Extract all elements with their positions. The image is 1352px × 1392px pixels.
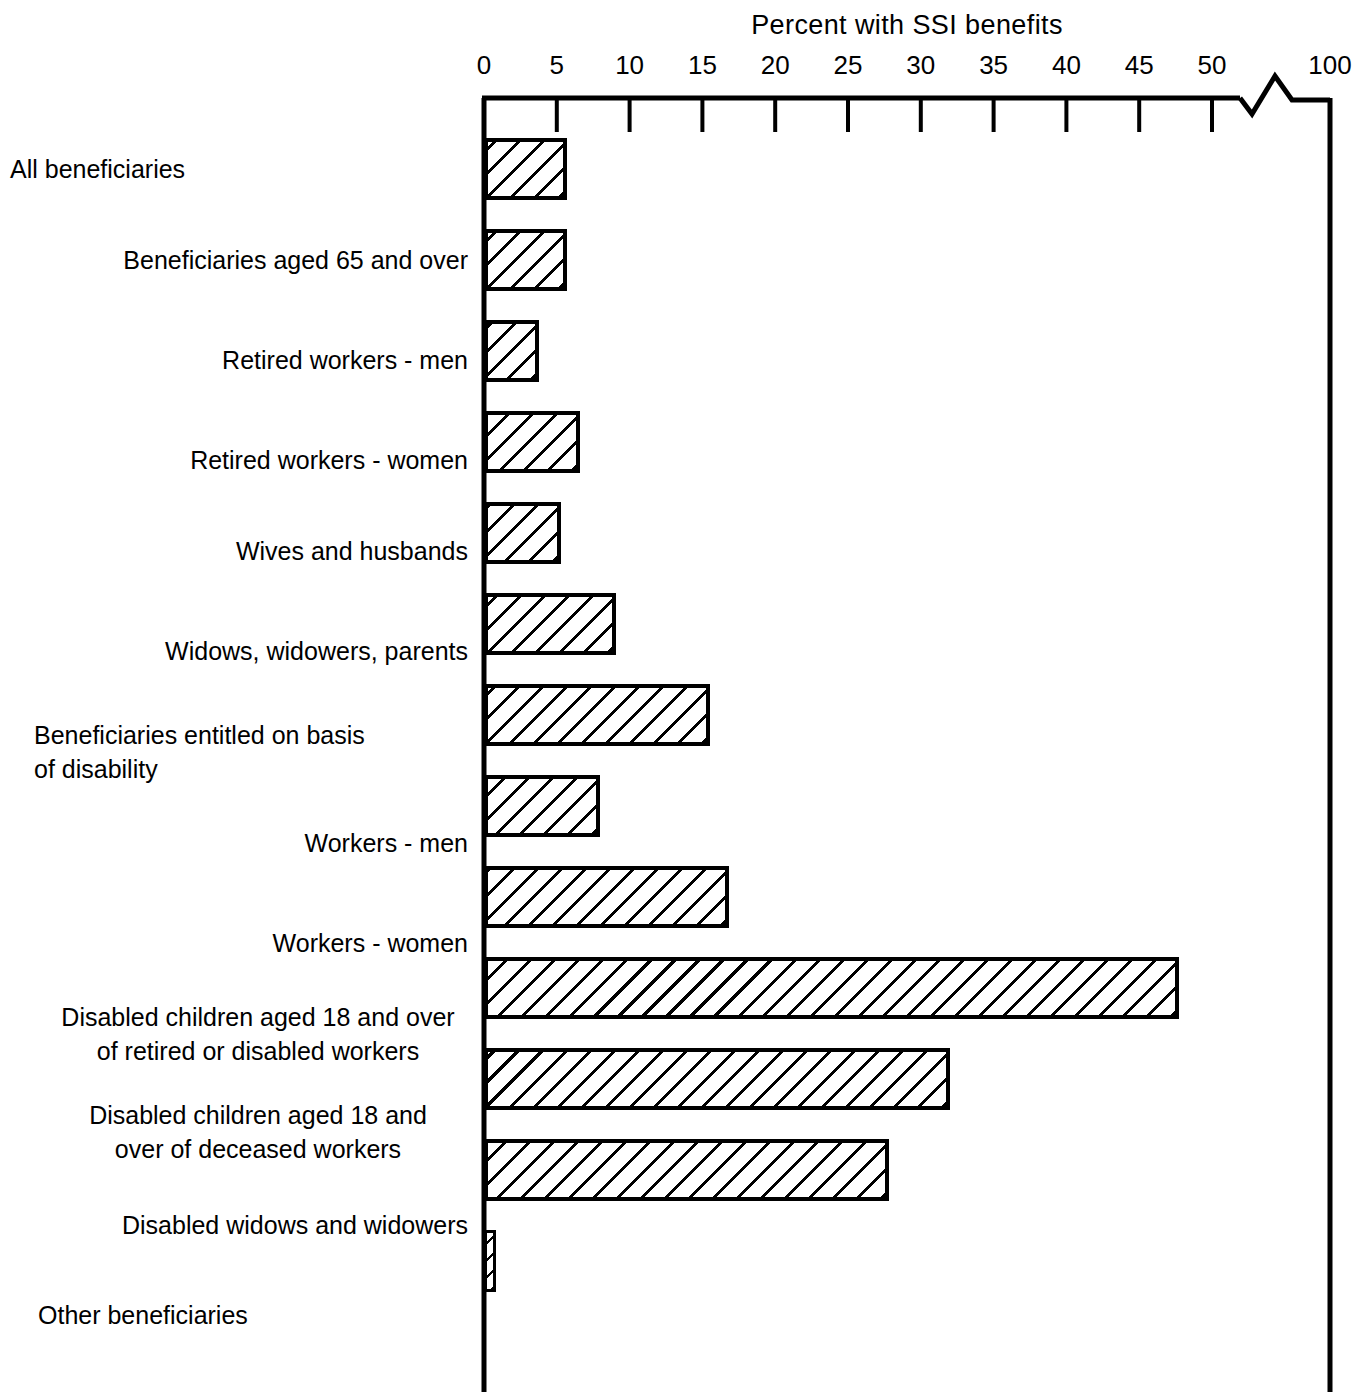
chart-title: Percent with SSI benefits (484, 10, 1330, 41)
bar (484, 320, 539, 382)
category-label: Other beneficiaries (38, 1298, 438, 1332)
x-axis-tick-5: 5 (550, 50, 564, 81)
category-label: Retired workers - men (146, 343, 468, 377)
x-axis-tick-15: 15 (688, 50, 717, 81)
bar (484, 775, 600, 837)
bar (484, 1048, 950, 1110)
x-axis-tick-100: 100 (1308, 50, 1351, 81)
category-label: Disabled widows and widowers (51, 1208, 468, 1242)
category-label: All beneficiaries (10, 152, 460, 186)
bar (484, 1139, 889, 1201)
bar (484, 138, 567, 200)
bar (484, 502, 561, 564)
x-axis-tick-45: 45 (1125, 50, 1154, 81)
bar (484, 684, 710, 746)
bar (484, 1230, 496, 1292)
x-axis-tick-50: 50 (1198, 50, 1227, 81)
category-label: Wives and husbands (158, 534, 468, 568)
x-axis-tick-10: 10 (615, 50, 644, 81)
x-axis-tick-30: 30 (906, 50, 935, 81)
category-label: Beneficiaries aged 65 and over (75, 243, 468, 277)
bar (484, 411, 580, 473)
category-label: Beneficiaries entitled on basis of disab… (34, 718, 454, 786)
category-label: Widows, widowers, parents (88, 634, 468, 668)
category-label: Workers - women (203, 926, 468, 960)
bar (484, 229, 567, 291)
bar (484, 593, 616, 655)
x-axis-tick-40: 40 (1052, 50, 1081, 81)
x-axis-tick-25: 25 (834, 50, 863, 81)
category-label: Disabled children aged 18 and over of de… (48, 1098, 468, 1166)
category-label: Retired workers - women (117, 443, 468, 477)
x-axis-tick-20: 20 (761, 50, 790, 81)
x-axis-tick-0: 0 (477, 50, 491, 81)
category-label: Workers - men (228, 826, 468, 860)
bar (484, 866, 729, 928)
bar (484, 957, 1179, 1019)
category-label: Disabled children aged 18 and over of re… (48, 1000, 468, 1068)
x-axis-tick-35: 35 (979, 50, 1008, 81)
